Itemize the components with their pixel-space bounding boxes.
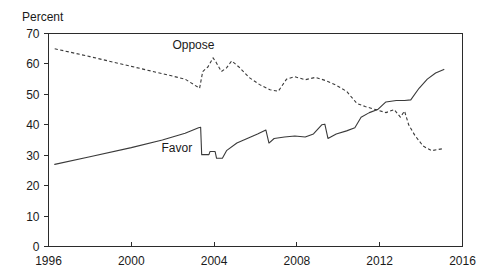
series-line-oppose [55, 49, 444, 151]
y-tick-label: 10 [26, 210, 40, 224]
series-line-favor [55, 69, 444, 164]
x-tick-label: 2000 [118, 254, 145, 268]
y-tick-label: 40 [26, 118, 40, 132]
x-tick-label: 2016 [449, 254, 476, 268]
chart-container: 010203040506070 199620002004200820122016… [0, 0, 489, 280]
y-tick-label: 20 [26, 179, 40, 193]
y-tick-label: 30 [26, 149, 40, 163]
y-tick-label: 70 [26, 27, 40, 41]
y-axis-ticks: 010203040506070 [26, 27, 48, 254]
y-tick-label: 0 [33, 240, 40, 254]
series-group [55, 49, 444, 165]
y-axis-title: Percent [22, 10, 64, 24]
y-tick-label: 50 [26, 88, 40, 102]
y-tick-label: 60 [26, 57, 40, 71]
x-tick-label: 2012 [366, 254, 393, 268]
x-axis-ticks: 199620002004200820122016 [35, 242, 476, 268]
series-annotation-oppose: Oppose [172, 38, 214, 52]
series-annotation-favor: Favor [161, 141, 192, 155]
plot-frame [48, 33, 463, 247]
line-chart: 010203040506070 199620002004200820122016… [0, 0, 489, 280]
x-tick-label: 2008 [284, 254, 311, 268]
x-tick-label: 2004 [201, 254, 228, 268]
x-tick-label: 1996 [35, 254, 62, 268]
